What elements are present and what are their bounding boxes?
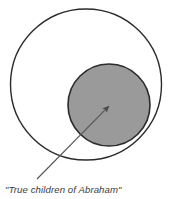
annotation-label: "True children of Abraham" <box>5 184 122 195</box>
diagram-canvas: "True children of Abraham" <box>0 0 171 199</box>
euler-diagram: "True children of Abraham" <box>0 0 171 199</box>
inner-circle <box>68 64 150 146</box>
